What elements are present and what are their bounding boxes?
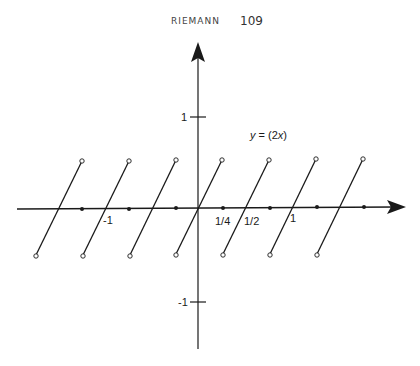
open-endpoint	[267, 158, 271, 162]
open-endpoint	[315, 253, 319, 257]
open-endpoint	[81, 254, 85, 258]
open-endpoint	[268, 253, 272, 257]
open-endpoint	[314, 157, 318, 161]
open-endpoint	[174, 158, 178, 162]
axis-dot	[174, 206, 178, 210]
function-label: y = (2x)	[249, 129, 287, 141]
open-endpoint	[80, 159, 84, 163]
axis-dot	[362, 205, 366, 209]
function-label-eq: = (2	[256, 129, 278, 141]
x-tick-label-quarter: 1/4	[215, 215, 230, 227]
function-label-close: )	[283, 129, 287, 141]
y-tick-label-minus-1: -1	[178, 296, 188, 308]
open-endpoint	[221, 253, 225, 257]
y-tick-label-1: 1	[181, 111, 187, 123]
open-endpoint	[174, 253, 178, 257]
axis-dot	[80, 207, 84, 211]
sawtooth-figure: -1 1/4 1/2 1 1 -1 y = (2x)	[0, 0, 420, 366]
axis-dot	[221, 206, 225, 210]
axis-dot	[268, 206, 272, 210]
open-endpoint	[361, 157, 365, 161]
axes	[17, 42, 406, 349]
open-endpoint	[128, 254, 132, 258]
x-tick-label-minus-1: -1	[103, 214, 113, 226]
open-endpoint	[127, 159, 131, 163]
open-endpoint	[220, 158, 224, 162]
x-tick-label-1: 1	[290, 212, 296, 224]
x-tick-label-half: 1/2	[244, 215, 259, 227]
axis-dot	[315, 205, 319, 209]
axis-dot	[127, 207, 131, 211]
open-endpoint	[34, 254, 38, 258]
